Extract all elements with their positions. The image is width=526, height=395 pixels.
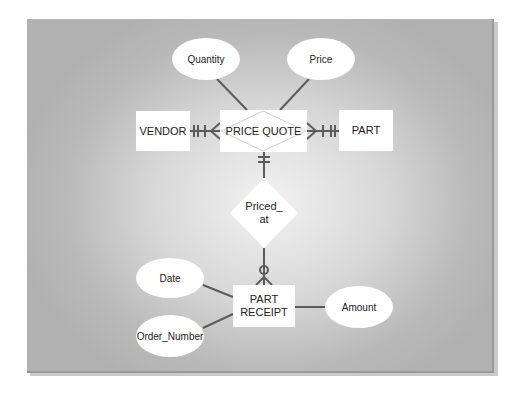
connector-order-number	[203, 314, 233, 328]
entity-part-receipt-line-1: PART	[250, 293, 278, 306]
connector-date	[203, 285, 233, 297]
attribute-amount-text: Amount	[342, 301, 376, 314]
attribute-order-number-label: Order_Number	[134, 315, 206, 357]
connector-quantity	[217, 79, 247, 110]
attribute-price-label: Price	[287, 38, 355, 80]
entity-part-text: PART	[352, 124, 380, 137]
vendor-pricequote-connector	[190, 123, 220, 139]
entity-vendor-text: VENDOR	[139, 125, 186, 138]
entity-price-quote-text: PRICE QUOTE	[226, 125, 302, 138]
attribute-amount-label: Amount	[325, 286, 393, 328]
pricedat-partreceipt-connector	[256, 248, 272, 285]
entity-part-receipt-line-2: RECEIPT	[240, 306, 288, 319]
part-pricequote-connector	[307, 123, 339, 139]
entity-part-label: PART	[339, 110, 393, 151]
entity-part-receipt-label: PART RECEIPT	[233, 285, 295, 327]
relationship-priced-at-line-1: Priced_	[245, 200, 282, 213]
entity-price-quote-label: PRICE QUOTE	[220, 110, 307, 152]
attribute-order-number-text: Order_Number	[137, 330, 204, 343]
connector-price	[280, 79, 309, 110]
pricequote-pricedat-connector	[258, 152, 270, 178]
relationship-priced-at-line-2: at	[259, 213, 268, 226]
attribute-quantity-label: Quantity	[172, 38, 240, 80]
entity-vendor-label: VENDOR	[136, 111, 190, 151]
relationship-priced-at-label: Priced_ at	[230, 196, 298, 230]
attribute-quantity-text: Quantity	[187, 53, 224, 66]
attribute-date-text: Date	[159, 272, 180, 285]
attribute-price-text: Price	[310, 53, 333, 66]
attribute-date-label: Date	[136, 258, 204, 298]
